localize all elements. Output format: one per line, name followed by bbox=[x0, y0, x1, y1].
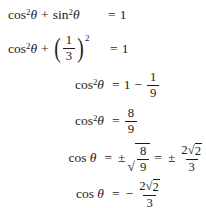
equation-list: cos2θ + sin2θ = 1 cos2θ + ( 1 3 ) bbox=[0, 0, 206, 207]
equation-3-lhs: cos2θ bbox=[0, 78, 104, 92]
equation-2-result: 1 bbox=[122, 42, 129, 56]
equation-line-3: cos2θ = 1 − 1 9 bbox=[0, 67, 206, 103]
inline-sqrt-6: √2 bbox=[146, 179, 160, 194]
exponent-2b: 2 bbox=[85, 34, 89, 43]
plus-operator-1: + bbox=[37, 8, 53, 22]
theta-5a: θ bbox=[90, 151, 97, 165]
fraction-denominator-6: 3 bbox=[143, 195, 155, 208]
equation-1-result: 1 bbox=[120, 8, 127, 22]
minus-operator-3: − bbox=[130, 78, 146, 92]
theta-1b: θ bbox=[73, 8, 80, 22]
radicand-5: 8 9 bbox=[135, 143, 150, 173]
fraction-one-third: 1 3 bbox=[63, 34, 75, 62]
radicand-denominator-5: 9 bbox=[137, 159, 149, 174]
cos-function-2: cos bbox=[8, 42, 26, 56]
radicand-numerator-5: 8 bbox=[137, 145, 149, 159]
fraction-numerator-3: 1 bbox=[147, 71, 159, 85]
parenthesized-fraction-2: ( 1 3 ) 2 bbox=[53, 34, 90, 62]
radical-sign-5: √ bbox=[128, 160, 135, 174]
equals-sign-1: = bbox=[104, 8, 120, 22]
fraction-numerator-5: 2√2 bbox=[178, 143, 205, 159]
fraction-denominator-5: 3 bbox=[186, 159, 198, 174]
equation-line-5: cos θ = ± √ 8 9 = ± 2√2 bbox=[0, 139, 206, 177]
equation-line-1: cos2θ + sin2θ = 1 bbox=[0, 0, 206, 30]
cos-function-6: cos bbox=[76, 187, 94, 201]
fraction-numerator-4: 8 bbox=[125, 107, 137, 121]
plus-operator-2: + bbox=[37, 42, 53, 56]
equation-1-rhs: = 1 bbox=[100, 8, 126, 22]
fraction-two-root-two-thirds-6: 2√2 3 bbox=[136, 179, 163, 207]
equals-sign-5b: = bbox=[150, 151, 166, 165]
cos-function-5: cos bbox=[68, 151, 86, 165]
theta-2a: θ bbox=[30, 42, 37, 56]
equation-2-rhs: = 1 bbox=[100, 42, 128, 56]
fraction-two-root-two-thirds-5: 2√2 3 bbox=[178, 143, 205, 173]
square-root-expression-5: √ 8 9 bbox=[128, 143, 151, 173]
equation-6-rhs: = − 2√2 3 bbox=[104, 179, 164, 207]
equation-5-lhs: cos θ bbox=[0, 151, 96, 165]
equation-3-rhs: = 1 − 1 9 bbox=[104, 71, 160, 99]
fraction-eight-ninths-under-radical: 8 9 bbox=[137, 145, 149, 173]
equation-6-lhs: cos θ bbox=[0, 187, 104, 201]
radical-sign-5b: √ bbox=[188, 144, 195, 157]
equals-sign-6: = bbox=[108, 187, 124, 201]
theta-6a: θ bbox=[97, 187, 104, 201]
paren-right-2: ) bbox=[77, 40, 83, 57]
equation-line-2: cos2θ + ( 1 3 ) 2 = 1 bbox=[0, 30, 206, 67]
fraction-numerator-6: 2√2 bbox=[136, 179, 163, 195]
cos-function-1: cos bbox=[8, 8, 26, 22]
fraction-denominator-3: 9 bbox=[147, 85, 159, 100]
plus-minus-sign-5a: ± bbox=[116, 151, 127, 165]
equation-line-4: cos2θ = 8 9 bbox=[0, 103, 206, 139]
equals-sign-4: = bbox=[108, 114, 124, 128]
fraction-denominator-4: 9 bbox=[125, 121, 137, 136]
fraction-one-ninth: 1 9 bbox=[147, 71, 159, 99]
equation-5-rhs: = ± √ 8 9 = ± 2√2 3 bbox=[96, 143, 206, 173]
plus-minus-sign-5b: ± bbox=[166, 151, 177, 165]
inline-radicand-6: 2 bbox=[153, 179, 160, 194]
theta-1a: θ bbox=[30, 8, 37, 22]
equation-2-lhs: cos2θ + ( 1 3 ) 2 bbox=[0, 34, 100, 62]
equals-sign-3: = bbox=[108, 78, 124, 92]
math-derivation-worksheet: cos2θ + sin2θ = 1 cos2θ + ( 1 3 ) bbox=[0, 0, 206, 207]
equals-sign-2: = bbox=[106, 42, 122, 56]
paren-left-2: ( bbox=[54, 40, 60, 57]
inline-sqrt-5: √2 bbox=[188, 143, 202, 158]
cos-function-3: cos bbox=[75, 78, 93, 92]
equation-3-leading-term: 1 bbox=[124, 78, 131, 92]
theta-4a: θ bbox=[97, 114, 104, 128]
fraction-numerator-2: 1 bbox=[63, 34, 75, 48]
equation-4-rhs: = 8 9 bbox=[104, 107, 138, 135]
radical-sign-6: √ bbox=[146, 180, 153, 193]
inline-radicand-5: 2 bbox=[195, 143, 202, 158]
equals-sign-5: = bbox=[100, 151, 116, 165]
equation-line-6: cos θ = − 2√2 3 bbox=[0, 177, 206, 207]
fraction-denominator-2: 3 bbox=[63, 48, 75, 63]
equation-1-lhs: cos2θ + sin2θ bbox=[0, 8, 100, 22]
fraction-eight-ninths: 8 9 bbox=[125, 107, 137, 135]
minus-sign-6: − bbox=[124, 187, 136, 201]
theta-3a: θ bbox=[97, 78, 104, 92]
sin-function-1: sin bbox=[53, 8, 69, 22]
equation-4-lhs: cos2θ bbox=[0, 114, 104, 128]
cos-function-4: cos bbox=[75, 114, 93, 128]
